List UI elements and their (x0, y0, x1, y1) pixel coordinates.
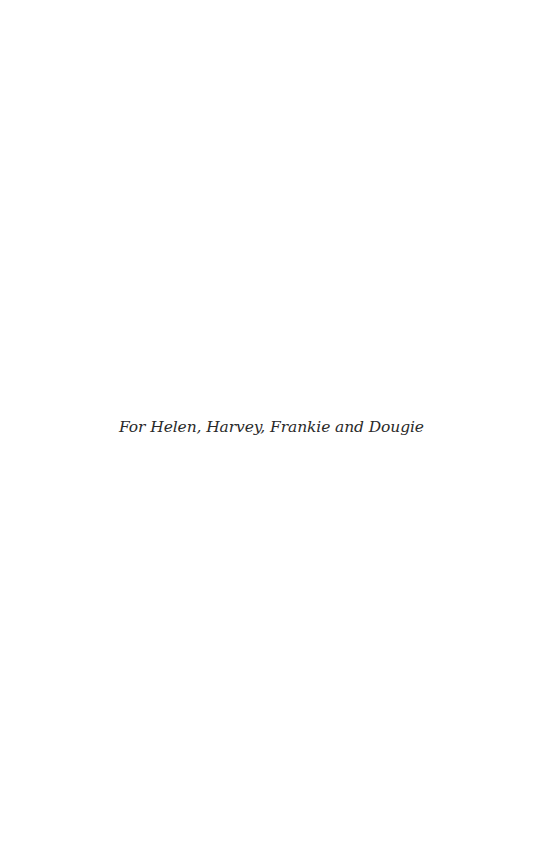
book-page: For Helen, Harvey, Frankie and Dougie (0, 0, 533, 863)
dedication-text: For Helen, Harvey, Frankie and Dougie (0, 418, 533, 436)
